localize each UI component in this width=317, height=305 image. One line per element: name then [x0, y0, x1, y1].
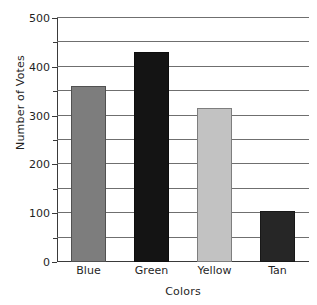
bar-chart: Number of Votes 0100200300400500 BlueGre…	[0, 0, 317, 305]
bar-slot	[120, 18, 183, 262]
bar-slot	[183, 18, 246, 262]
y-axis-tick-label: 100	[29, 207, 50, 220]
y-axis-tick-label: 200	[29, 158, 50, 171]
bars-group	[57, 18, 309, 262]
x-axis-tick-label: Green	[120, 264, 183, 277]
y-axis-tick-label: 300	[29, 109, 50, 122]
x-axis-title: Colors	[57, 285, 309, 298]
bar-slot	[246, 18, 309, 262]
bar-green	[134, 52, 169, 262]
x-axis-tick-label: Yellow	[183, 264, 246, 277]
bar-tan	[260, 211, 295, 262]
y-axis-tick-label: 500	[29, 12, 50, 25]
x-axis-tick-label: Blue	[57, 264, 120, 277]
plot-area: 0100200300400500	[57, 18, 309, 262]
bar-slot	[57, 18, 120, 262]
x-axis-tick-labels: BlueGreenYellowTan	[57, 264, 309, 277]
x-axis-tick-label: Tan	[246, 264, 309, 277]
bar-yellow	[197, 108, 232, 262]
y-axis-title: Number of Votes	[14, 28, 27, 178]
bar-blue	[71, 86, 106, 262]
y-axis-tick-label: 400	[29, 60, 50, 73]
y-axis-tick-mark	[52, 262, 57, 263]
y-axis-tick-label: 0	[43, 256, 50, 269]
